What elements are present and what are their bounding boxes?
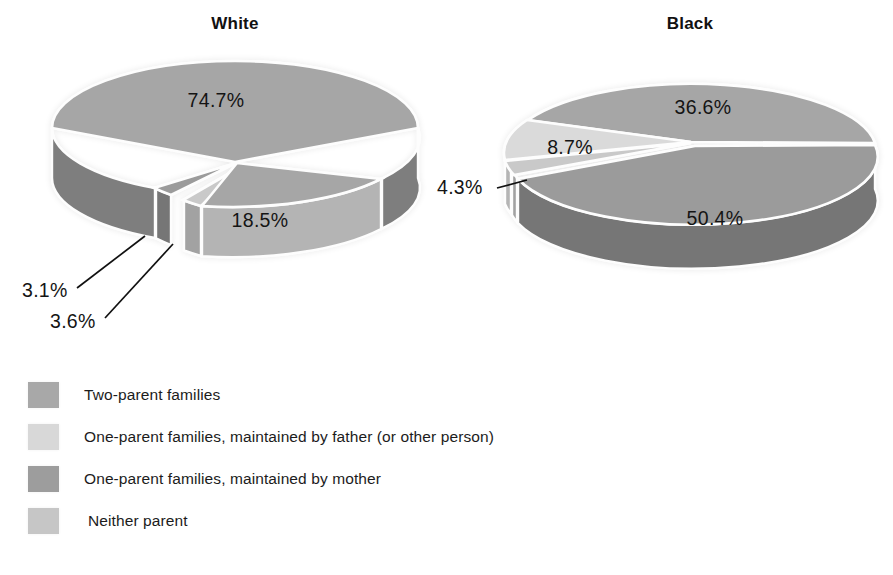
- legend-label-neither-parent: Neither parent: [88, 512, 188, 530]
- pie-value-label-mother-white: 3.1%: [22, 279, 68, 301]
- pie-chart-white: 74.7% 18.5% 3.1% 3.6%: [20, 40, 470, 340]
- legend-swatch-neither-parent: [28, 508, 59, 534]
- chart-legend: Two-parent families One-parent families,…: [28, 374, 648, 542]
- pie-value-label-two-parent-white: 74.7%: [188, 89, 245, 111]
- callout-line-neither-white: [105, 244, 173, 318]
- pie-value-label-two-parent-black: 36.6%: [675, 96, 732, 118]
- legend-swatch-one-parent-father: [28, 424, 59, 450]
- legend-item-neither-parent: Neither parent: [28, 500, 648, 542]
- pie-chart-black: 36.6% 8.7% 50.4% 4.3%: [455, 42, 893, 342]
- pie-chart-title-white: White: [160, 14, 310, 34]
- legend-label-one-parent-father: One-parent families, maintained by fathe…: [84, 428, 494, 446]
- callout-line-mother-white: [77, 236, 145, 288]
- legend-swatch-two-parent-families: [28, 382, 59, 408]
- legend-label-one-parent-mother: One-parent families, maintained by mothe…: [84, 470, 381, 488]
- pie-slice-side-two-parent-right-white: [382, 128, 420, 229]
- legend-item-one-parent-mother: One-parent families, maintained by mothe…: [28, 458, 648, 500]
- pie-slice-top-two-parent-white: [52, 61, 418, 162]
- legend-label-two-parent-families: Two-parent families: [84, 386, 220, 404]
- pie-slice-side-mother-white: [156, 188, 171, 245]
- pie-value-label-neither-black: 4.3%: [437, 176, 483, 198]
- legend-item-two-parent-families: Two-parent families: [28, 374, 648, 416]
- chart-canvas: White Black: [0, 0, 893, 575]
- legend-item-one-parent-father: One-parent families, maintained by fathe…: [28, 416, 648, 458]
- pie-chart-title-black: Black: [615, 14, 765, 34]
- pie-value-label-father-white: 18.5%: [232, 209, 289, 231]
- pie-value-label-mother-black: 50.4%: [687, 207, 744, 229]
- pie-value-label-neither-white: 3.6%: [50, 310, 96, 332]
- pie-value-label-father-black: 8.7%: [547, 136, 593, 158]
- legend-swatch-one-parent-mother: [28, 466, 59, 492]
- pie-slice-side-neither-white: [184, 201, 201, 257]
